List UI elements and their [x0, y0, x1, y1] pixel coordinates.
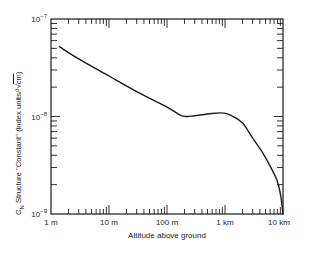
x-tick-label: 10 m — [100, 218, 118, 227]
data-curve — [60, 47, 284, 214]
y-tick-label: 10−7 — [31, 13, 47, 24]
axis-ticks — [51, 19, 283, 214]
y-axis-title: CN Structure ''Constant'' (index units/³… — [14, 15, 25, 215]
chart-canvas: 1 m10 m100 m1 km10 km 10−710−810−9 — [0, 0, 315, 254]
x-tick-label: 1 m — [44, 218, 58, 227]
x-tick-label: 1 km — [216, 218, 234, 227]
y-tick-label: 10−8 — [31, 111, 47, 122]
x-tick-label: 100 m — [156, 218, 179, 227]
x-tick-label: 10 km — [268, 218, 290, 227]
x-tick-labels: 1 m10 m100 m1 km10 km — [44, 218, 290, 227]
plot-frame — [51, 19, 283, 214]
y-tick-labels: 10−710−810−9 — [31, 13, 47, 219]
x-axis-title: Altitude above ground — [51, 231, 283, 240]
